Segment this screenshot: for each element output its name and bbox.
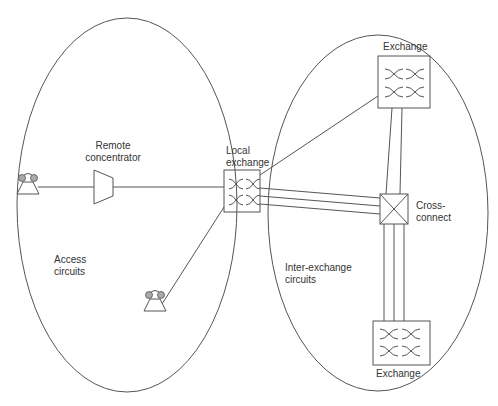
remote-concentrator-label: Remote concentrator	[72, 140, 154, 164]
local-exchange-label: Local exchange	[226, 145, 269, 169]
bottom-exchange-icon	[373, 321, 430, 365]
link-local-to-top-exchange	[260, 96, 378, 175]
top-exchange-label: Exchange	[383, 41, 427, 53]
inter-exchange-trunk-local-cross	[260, 188, 380, 214]
bottom-exchange-label: Exchange	[376, 368, 420, 380]
access-line-telephone-2	[162, 207, 224, 304]
cross-connect-label: Cross- connect	[416, 200, 451, 224]
remote-concentrator-icon	[94, 170, 113, 204]
access-region-ellipse	[17, 18, 237, 392]
telephone-icon	[144, 291, 166, 312]
local-exchange-icon	[224, 170, 260, 212]
telephone-icon	[17, 174, 39, 195]
trunk-top-exchange-cross	[386, 108, 402, 194]
top-exchange-icon	[378, 56, 430, 108]
access-circuits-label: Access circuits	[54, 254, 86, 278]
trunk-cross-bottom-exchange	[384, 224, 404, 321]
cross-connect-icon	[380, 194, 408, 224]
inter-exchange-circuits-label: Inter-exchange circuits	[285, 262, 352, 286]
